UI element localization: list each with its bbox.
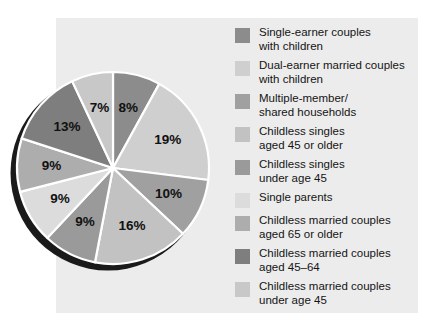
legend-color-swatch xyxy=(235,127,250,142)
legend-color-swatch xyxy=(235,216,250,231)
legend-item-label: Dual-earner married couples with childre… xyxy=(259,59,405,86)
legend-item-label: Childless married couples under age 45 xyxy=(259,280,391,307)
pie-slice-label: 9% xyxy=(50,191,70,206)
legend: Single-earner couples with childrenDual-… xyxy=(235,26,425,313)
legend-color-swatch xyxy=(235,61,250,76)
legend-item[interactable]: Childless singles under age 45 xyxy=(235,158,425,185)
legend-item-label: Childless singles under age 45 xyxy=(259,158,345,185)
legend-item[interactable]: Childless singles aged 45 or older xyxy=(235,125,425,152)
legend-color-swatch xyxy=(235,28,250,43)
legend-item-label: Single parents xyxy=(259,191,333,205)
legend-item[interactable]: Dual-earner married couples with childre… xyxy=(235,59,425,86)
legend-item[interactable]: Childless married couples under age 45 xyxy=(235,280,425,307)
legend-item-label: Childless married couples aged 45–64 xyxy=(259,247,391,274)
pie-slice-label: 19% xyxy=(154,132,181,147)
legend-item[interactable]: Childless married couples aged 45–64 xyxy=(235,247,425,274)
legend-item[interactable]: Multiple-member/ shared households xyxy=(235,92,425,119)
pie-slice-label: 9% xyxy=(75,214,95,229)
pie-slice-label: 8% xyxy=(119,100,139,115)
pie-chart-svg: 8%19%10%16%9%9%9%13%7% xyxy=(10,62,225,280)
legend-item[interactable]: Single-earner couples with children xyxy=(235,26,425,53)
legend-item[interactable]: Single parents xyxy=(235,191,425,208)
pie-slice-label: 13% xyxy=(53,119,80,134)
legend-color-swatch xyxy=(235,282,250,297)
pie-chart-figure: 8%19%10%16%9%9%9%13%7% Single-earner cou… xyxy=(0,0,429,329)
pie-slice-label: 16% xyxy=(118,218,145,233)
pie-slice-label: 10% xyxy=(155,186,182,201)
legend-item[interactable]: Childless married couples aged 65 or old… xyxy=(235,214,425,241)
pie-chart: 8%19%10%16%9%9%9%13%7% xyxy=(10,62,225,280)
legend-item-label: Childless singles aged 45 or older xyxy=(259,125,345,152)
legend-item-label: Childless married couples aged 65 or old… xyxy=(259,214,391,241)
pie-slice-label: 7% xyxy=(90,100,110,115)
legend-item-label: Single-earner couples with children xyxy=(259,26,371,53)
legend-color-swatch xyxy=(235,193,250,208)
legend-color-swatch xyxy=(235,249,250,264)
legend-item-label: Multiple-member/ shared households xyxy=(259,92,356,119)
legend-color-swatch xyxy=(235,160,250,175)
pie-slice-label: 9% xyxy=(42,158,62,173)
legend-color-swatch xyxy=(235,94,250,109)
